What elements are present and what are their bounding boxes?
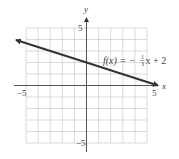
x-tick-5: 5 [152, 88, 157, 98]
fraction-numerator: 1 [141, 54, 144, 60]
y-tick-neg5: −5 [76, 138, 86, 148]
function-rhs: x + 2 [146, 55, 167, 66]
function-label: f(x) = − 1 3 x + 2 [103, 54, 166, 67]
svg-text:x + 2: x + 2 [146, 55, 167, 66]
x-tick-neg5: −5 [17, 88, 27, 98]
y-axis-label: y [83, 4, 88, 14]
function-graph: y x 5 −5 −5 5 f(x) = − 1 3 x + 2 [0, 0, 179, 159]
y-tick-5: 5 [78, 23, 83, 33]
svg-text:f(x) = −: f(x) = − [103, 55, 135, 67]
fraction-denominator: 3 [141, 61, 144, 67]
function-lhs: f(x) = − [103, 55, 135, 67]
x-axis-label: x [161, 81, 166, 91]
